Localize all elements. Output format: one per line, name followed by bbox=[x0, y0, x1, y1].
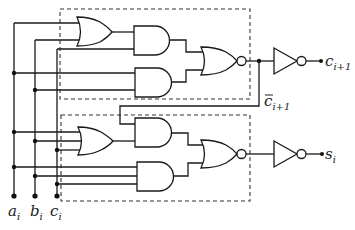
label-sum-out: si bbox=[325, 145, 336, 165]
or-gate-sum bbox=[78, 127, 113, 155]
or-gate-carry bbox=[77, 17, 112, 46]
nor-bubble-carry bbox=[237, 57, 246, 66]
label-input-b: bi bbox=[30, 202, 43, 222]
and-gate-carry-2 bbox=[135, 68, 172, 97]
inverter-sum bbox=[274, 141, 297, 167]
label-carry-bar: ci+1 bbox=[264, 92, 290, 112]
and-gate-sum-2 bbox=[137, 162, 174, 191]
label-input-c: ci bbox=[50, 202, 62, 222]
full-adder-diagram: ci+1 ci+1 si ai bi ci bbox=[0, 0, 355, 230]
svg-text:ci+1: ci+1 bbox=[264, 92, 290, 112]
label-input-a: ai bbox=[8, 202, 20, 222]
inverter-bubble-sum bbox=[297, 150, 306, 159]
nor-gate-carry bbox=[201, 47, 237, 75]
and-gate-carry-1 bbox=[134, 26, 170, 55]
inverter-carry bbox=[274, 48, 297, 74]
inverter-bubble-carry bbox=[297, 57, 306, 66]
label-carry-out: ci+1 bbox=[325, 52, 351, 72]
and-gate-sum-1 bbox=[135, 118, 172, 147]
nor-gate-sum bbox=[201, 140, 237, 168]
input-bus bbox=[11, 23, 59, 199]
nor-bubble-sum bbox=[237, 150, 246, 159]
